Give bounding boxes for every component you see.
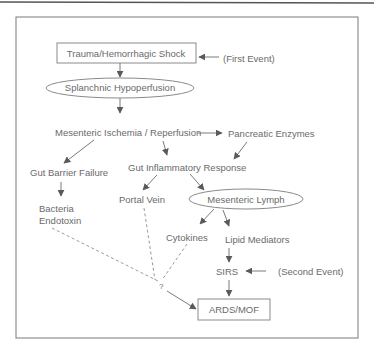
- arrow-gut-inflammatory-to-portal-vein: [143, 175, 157, 190]
- cytokines-label: Cytokines: [166, 232, 208, 243]
- node-trauma-hemorrhagic-shock: Trauma/Hemorrhagic Shock: [57, 43, 196, 63]
- first-event-label: (First Event): [223, 53, 275, 64]
- dashed-cytokines-to-question: [162, 244, 187, 280]
- lipid-mediators-label: Lipid Mediators: [225, 234, 290, 245]
- endotoxin-label: Endotoxin: [39, 215, 81, 226]
- node-mesenteric-lymph: Mesenteric Lymph: [189, 189, 303, 209]
- pancreatic-label: Pancreatic Enzymes: [228, 128, 315, 139]
- bacteria-label: Bacteria: [39, 203, 75, 214]
- arrow-lymph-to-lipid-mediators: [223, 210, 229, 226]
- arrow-pancreatic-to-gut-inflammatory: [234, 142, 247, 159]
- sirs-label: SIRS: [216, 266, 238, 277]
- ards-mof-label: ARDS/MOF: [209, 304, 259, 315]
- arrow-gut-inflammatory-to-mesenteric-lymph: [190, 174, 204, 190]
- node-splanchnic-hypoperfusion: Splanchnic Hypoperfusion: [46, 78, 194, 98]
- mesenteric-lymph-label: Mesenteric Lymph: [207, 194, 284, 205]
- second-event-label: (Second Event): [278, 266, 343, 277]
- dashed-portal-vein-to-question: [144, 208, 155, 280]
- arrow-lymph-to-cytokines: [200, 209, 214, 224]
- diagram-canvas: Trauma/Hemorrhagic Shock (First Event) S…: [0, 0, 374, 352]
- arrow-question-to-ards: [167, 291, 196, 309]
- ischemia-label: Mesenteric Ischemia / Reperfusion: [55, 127, 201, 138]
- node-ards-mof: ARDS/MOF: [198, 299, 270, 320]
- question-mark-label: ?: [159, 282, 164, 291]
- arrow-ischemia-to-gut-barrier: [64, 140, 94, 163]
- portal-vein-label: Portal Vein: [119, 194, 165, 205]
- gut-barrier-label: Gut Barrier Failure: [30, 167, 108, 178]
- top-rule: [0, 2, 374, 3]
- arrow-ischemia-to-gut-inflammatory: [163, 141, 167, 155]
- trauma-label: Trauma/Hemorrhagic Shock: [67, 48, 186, 59]
- dashed-bacteria-to-question: [52, 228, 158, 281]
- splanchnic-label: Splanchnic Hypoperfusion: [65, 82, 175, 93]
- gut-inflammatory-label: Gut Inflammatory Response: [128, 162, 246, 173]
